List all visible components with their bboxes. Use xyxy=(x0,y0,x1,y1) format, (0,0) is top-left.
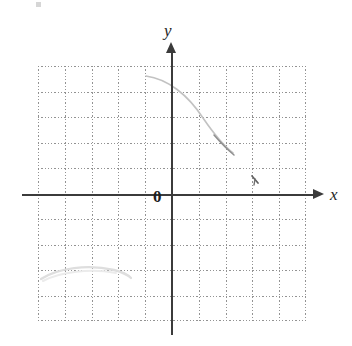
x-axis-line xyxy=(22,194,316,196)
origin-label: 0 xyxy=(153,188,162,205)
x-axis-label: x xyxy=(330,186,338,203)
scan-speck-artifact xyxy=(36,2,41,7)
y-axis-arrow-icon xyxy=(166,42,176,53)
y-axis-label: y xyxy=(164,22,172,39)
graph-figure: y x 0 xyxy=(0,0,352,346)
x-axis-arrow-icon xyxy=(313,189,324,199)
y-axis-line xyxy=(171,52,173,335)
